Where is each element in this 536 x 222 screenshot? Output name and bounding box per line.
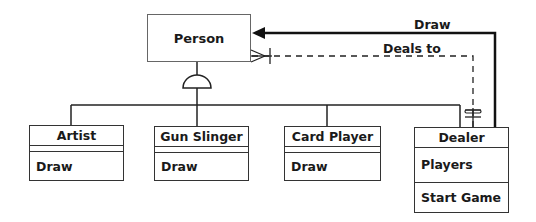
class-name: Card Player (285, 127, 380, 147)
class-name: Gun Slinger (155, 127, 248, 147)
inheritance-symbol (183, 75, 211, 88)
association-label-draw: Draw (414, 17, 451, 32)
class-card-player[interactable]: Card Player Draw (284, 126, 381, 181)
operation: Start Game (415, 183, 508, 212)
operation: Draw (30, 152, 123, 180)
operation: Draw (285, 153, 380, 180)
class-name: Person (174, 31, 225, 46)
class-name: Dealer (415, 128, 508, 148)
class-artist[interactable]: Artist Draw (29, 125, 124, 181)
association-label-deals-to: Deals to (383, 41, 441, 56)
arrowhead-icon (252, 27, 265, 39)
class-person[interactable]: Person (147, 14, 251, 62)
operation: Draw (155, 153, 248, 180)
class-name: Artist (30, 126, 123, 146)
attribute: Players (415, 148, 508, 183)
class-dealer[interactable]: Dealer Players Start Game (414, 127, 509, 213)
class-gun-slinger[interactable]: Gun Slinger Draw (154, 126, 249, 181)
